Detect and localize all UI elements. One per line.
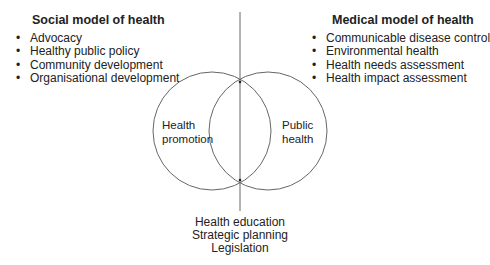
overlap-items: Health education Strategic planning Legi… bbox=[170, 216, 310, 255]
intersection-dot-top bbox=[239, 81, 242, 84]
health-promotion-label: Health promotion bbox=[162, 119, 213, 146]
intersection-dot-bottom bbox=[239, 179, 242, 182]
overlap-item: Legislation bbox=[170, 242, 310, 255]
public-health-label: Public health bbox=[282, 119, 313, 146]
